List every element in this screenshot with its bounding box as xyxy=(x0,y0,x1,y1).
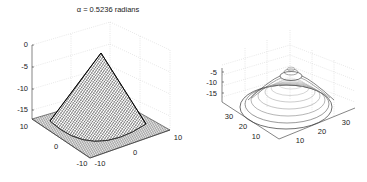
left-title: α = 0.5236 radians xyxy=(77,5,140,14)
svg-text:-5: -5 xyxy=(21,62,28,71)
right-x-tick-labels: 10 20 30 xyxy=(296,118,350,145)
right-grid xyxy=(222,30,355,116)
svg-text:0: 0 xyxy=(54,142,58,151)
svg-text:-10: -10 xyxy=(206,78,217,87)
svg-text:0: 0 xyxy=(133,148,137,157)
left-z-tick-labels: 0 -5 -10 -15 10 xyxy=(17,40,28,131)
svg-text:30: 30 xyxy=(342,118,350,127)
svg-text:10: 10 xyxy=(252,132,260,141)
figure: α = 0.5236 radians xyxy=(0,0,367,182)
svg-text:-15: -15 xyxy=(206,89,217,98)
right-z-tick-labels: -5 -10 -15 xyxy=(206,68,217,98)
svg-text:30: 30 xyxy=(225,112,233,121)
svg-text:20: 20 xyxy=(318,127,326,136)
right-axes: -5 -10 -15 30 20 10 10 20 30 xyxy=(206,30,355,145)
svg-text:0: 0 xyxy=(24,40,28,49)
svg-text:10: 10 xyxy=(174,133,182,142)
svg-text:20: 20 xyxy=(239,122,247,131)
left-axes: α = 0.5236 radians xyxy=(17,5,182,168)
svg-text:10: 10 xyxy=(20,122,28,131)
svg-text:-5: -5 xyxy=(210,68,217,77)
svg-text:10: 10 xyxy=(296,136,304,145)
svg-text:-10: -10 xyxy=(17,84,28,93)
svg-text:-10: -10 xyxy=(95,159,106,168)
svg-text:-15: -15 xyxy=(17,105,28,114)
left-surface-cone xyxy=(50,53,146,141)
svg-text:-10: -10 xyxy=(77,159,88,168)
